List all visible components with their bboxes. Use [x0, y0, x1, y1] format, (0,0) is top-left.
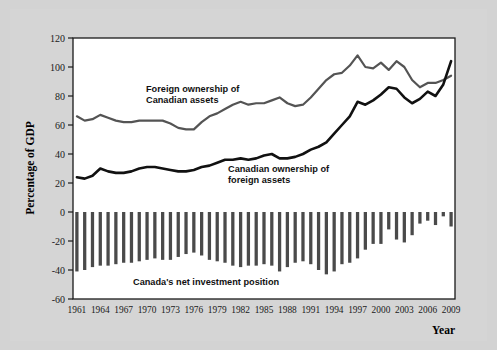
net-investment-bar	[138, 212, 141, 261]
net-investment-bar	[114, 212, 117, 264]
chart-canvas: -60-40-20020406080100120 196119641967197…	[0, 0, 497, 350]
y-axis: -60-40-20020406080100120	[50, 33, 73, 305]
net-investment-bar	[177, 212, 180, 257]
net-investment-bar	[442, 212, 445, 216]
net-investment-bar	[231, 212, 234, 266]
x-axis-tick-label: 2009	[442, 305, 461, 315]
x-axis-tick-label: 1979	[208, 305, 227, 315]
net-investment-bar	[247, 212, 250, 266]
y-axis-tick-label: 0	[60, 207, 65, 218]
net-investment-bar	[309, 212, 312, 264]
y-axis-title: Percentage of GDP	[24, 121, 37, 215]
net-investment-bar	[169, 212, 172, 260]
net-investment-bar	[348, 212, 351, 263]
net-investment-bar	[364, 212, 367, 250]
net-investment-bar	[255, 212, 258, 266]
x-axis-tick-label: 2006	[418, 305, 437, 315]
net-investment-bar	[145, 212, 148, 260]
net-investment-bar	[262, 212, 265, 264]
x-axis-tick-label: 1985	[255, 305, 274, 315]
foreign-ownership-label-line1: Foreign ownership of	[146, 84, 240, 94]
net-investment-bar	[130, 212, 133, 263]
y-axis-tick-label: 80	[55, 91, 65, 102]
net-investment-bar	[270, 212, 273, 266]
canadian-ownership-label-line1: Canadian ownership of	[228, 164, 330, 174]
net-investment-bar	[192, 212, 195, 253]
net-investment-bar	[223, 212, 226, 263]
net-investment-bar	[153, 212, 156, 258]
chart-figure: -60-40-20020406080100120 196119641967197…	[0, 0, 497, 350]
net-investment-bar	[208, 212, 211, 260]
net-investment-bar	[278, 212, 281, 271]
net-investment-bar	[410, 212, 413, 235]
x-axis-tick-label: 2000	[372, 305, 391, 315]
x-axis-tick-label: 1967	[114, 305, 133, 315]
net-investment-bar	[325, 212, 328, 274]
net-investment-bar	[387, 212, 390, 229]
net-investment-bar	[379, 212, 382, 244]
net-investment-bar	[317, 212, 320, 270]
net-investment-bar	[75, 212, 78, 271]
net-investment-bar	[449, 212, 452, 227]
net-investment-bar	[239, 212, 242, 267]
y-axis-tick-label: -20	[52, 236, 65, 247]
net-investment-bar	[106, 212, 109, 266]
x-axis-tick-label: 1991	[301, 305, 320, 315]
net-investment-bar	[122, 212, 125, 263]
x-axis-tick-label: 2003	[395, 305, 414, 315]
net-investment-bar	[161, 212, 164, 260]
x-axis-tick-label: 1970	[138, 305, 157, 315]
canadian-ownership-label-line2: foreign assets	[228, 175, 290, 185]
y-axis-tick-label: -40	[52, 265, 65, 276]
x-axis-tick-label: 1961	[68, 305, 87, 315]
x-axis-tick-label: 1976	[184, 305, 203, 315]
net-investment-bar	[356, 212, 359, 258]
y-axis-tick-label: 40	[55, 149, 65, 160]
net-investment-bar	[91, 212, 94, 267]
net-investment-bar	[426, 212, 429, 221]
net-investment-bar	[83, 212, 86, 270]
y-axis-tick-label: 120	[50, 33, 65, 44]
net-investment-bar	[200, 212, 203, 256]
net-investment-bar	[301, 212, 304, 261]
x-axis-tick-label: 1982	[231, 305, 250, 315]
net-investment-bar	[372, 212, 375, 244]
y-axis-tick-label: 20	[55, 178, 65, 189]
net-investment-bar	[216, 212, 219, 261]
foreign-ownership-label-line2: Canadian assets	[146, 95, 219, 105]
x-axis-tick-label: 1997	[348, 305, 367, 315]
y-axis-tick-label: 100	[50, 62, 65, 73]
net-investment-bar	[286, 212, 289, 267]
x-axis: 1961196419671970197319761979198219851988…	[68, 305, 461, 315]
net-investment-bar	[99, 212, 102, 266]
net-investment-bar	[184, 212, 187, 254]
y-axis-tick-label: -60	[52, 294, 65, 305]
net-investment-bar	[340, 212, 343, 264]
x-axis-title: Year	[432, 324, 455, 336]
y-axis-tick-label: 60	[55, 120, 65, 131]
net-investment-position-label: Canada's net investment position	[133, 277, 280, 287]
net-investment-bar	[395, 212, 398, 240]
net-investment-bar	[294, 212, 297, 263]
net-investment-bar	[418, 212, 421, 224]
x-axis-tick-label: 1973	[161, 305, 180, 315]
net-investment-bar	[434, 212, 437, 225]
x-axis-tick-label: 1964	[91, 305, 110, 315]
net-investment-bar	[333, 212, 336, 271]
x-axis-tick-label: 1994	[325, 305, 344, 315]
x-axis-tick-label: 1988	[278, 305, 297, 315]
net-investment-bar	[403, 212, 406, 242]
